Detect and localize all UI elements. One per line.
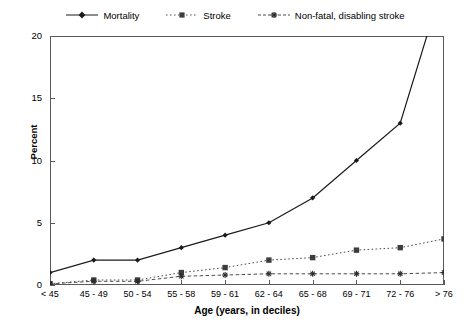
data-point-marker bbox=[178, 273, 184, 279]
data-point-marker bbox=[266, 257, 271, 262]
data-point-marker bbox=[353, 271, 359, 277]
data-point-marker bbox=[398, 245, 403, 250]
data-point-marker bbox=[222, 272, 228, 278]
data-point-marker bbox=[223, 233, 228, 238]
data-point-marker bbox=[91, 258, 96, 263]
data-point-marker bbox=[354, 247, 359, 252]
line-chart: Mortality Stroke bbox=[0, 0, 470, 327]
data-series-layer bbox=[0, 0, 470, 327]
data-point-marker bbox=[266, 271, 272, 277]
data-point-marker bbox=[441, 270, 447, 276]
data-point-marker bbox=[47, 270, 52, 275]
data-point-marker bbox=[310, 271, 316, 277]
data-point-marker bbox=[135, 258, 140, 263]
series-non-fatal-disabling-stroke bbox=[47, 270, 447, 287]
series-stroke bbox=[47, 236, 446, 286]
series-line bbox=[50, 273, 444, 284]
data-point-marker bbox=[441, 236, 446, 241]
series-mortality bbox=[47, 0, 444, 275]
data-point-marker bbox=[310, 255, 315, 260]
data-point-marker bbox=[91, 278, 97, 284]
data-point-marker bbox=[266, 220, 271, 225]
series-line bbox=[50, 239, 444, 284]
data-point-marker bbox=[135, 278, 141, 284]
data-point-marker bbox=[222, 265, 227, 270]
data-point-marker bbox=[47, 281, 53, 287]
data-point-marker bbox=[179, 245, 184, 250]
series-line bbox=[50, 0, 444, 273]
data-point-marker bbox=[397, 271, 403, 277]
